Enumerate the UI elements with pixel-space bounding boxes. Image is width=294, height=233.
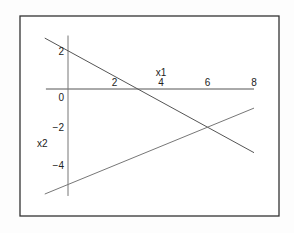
y-tick-label: −2 bbox=[53, 122, 65, 133]
y-axis-label: x2 bbox=[37, 138, 48, 149]
x-tick-label: 4 bbox=[158, 77, 164, 88]
y-tick-label: −4 bbox=[53, 160, 65, 171]
x-axis-label: x1 bbox=[156, 67, 167, 78]
x-tick-label: 6 bbox=[205, 77, 211, 88]
y-tick-label: 2 bbox=[58, 46, 64, 57]
x-tick-label: 2 bbox=[112, 77, 118, 88]
y-tick-label: 0 bbox=[58, 92, 64, 103]
x-tick-label: 8 bbox=[251, 77, 257, 88]
chart-canvas: 246820−2−4 x1 x2 bbox=[0, 0, 294, 233]
